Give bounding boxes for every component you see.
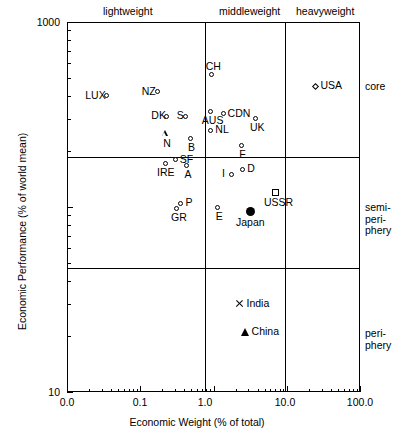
axis-tick: [67, 78, 71, 79]
axis-tick: [67, 263, 71, 264]
point-label: I: [222, 168, 225, 179]
axis-tick: [280, 389, 281, 392]
triangle-inner: [162, 132, 166, 136]
data-point: [162, 130, 168, 136]
axis-tick: [210, 389, 211, 392]
axis-tick: [275, 389, 276, 392]
axis-tick: [118, 389, 119, 392]
data-point: [178, 201, 183, 206]
data-point: [183, 114, 188, 119]
marker-circle-icon: [183, 114, 188, 119]
axis-tick: [360, 386, 361, 392]
axis-tick: [175, 389, 176, 392]
axis-tick: [287, 386, 288, 392]
data-point: [241, 328, 249, 336]
point-label: IRE: [157, 167, 175, 178]
axis-tick: [67, 225, 71, 226]
point-label: N: [163, 138, 171, 149]
marker-diamond-icon: [312, 83, 319, 90]
x-tick-01: 0.1: [118, 396, 162, 408]
axis-tick: [137, 389, 138, 392]
point-label: NL: [215, 124, 228, 135]
axis-tick: [129, 389, 130, 392]
point-label: CDN: [228, 108, 251, 119]
axis-tick: [124, 389, 125, 392]
data-point: [313, 84, 318, 89]
axis-tick: [67, 63, 71, 64]
axis-tick: [67, 248, 71, 249]
axis-tick: [344, 389, 345, 392]
data-point: [221, 111, 226, 116]
axis-tick: [265, 389, 266, 392]
data-point: [229, 172, 234, 177]
axis-tick: [102, 389, 103, 392]
x-tick-10: 10.0: [263, 396, 307, 408]
axis-tick: [162, 389, 163, 392]
divider-horizontal-semi: [67, 268, 360, 269]
data-point: [173, 157, 178, 162]
axis-tick: [353, 389, 354, 392]
axis-tick: [133, 389, 134, 392]
axis-tick: [338, 389, 339, 392]
marker-triangle-filled-icon: [241, 328, 249, 336]
point-label: F: [239, 149, 245, 160]
axis-tick: [67, 30, 71, 31]
x-axis-label: Economic Weight (% of total): [0, 416, 394, 428]
axis-tick: [67, 119, 71, 120]
axis-tick: [283, 389, 284, 392]
plot-area: [67, 22, 360, 392]
point-label: NZ: [142, 86, 156, 97]
marker-circle-icon: [209, 72, 214, 77]
axis-tick: [357, 389, 358, 392]
axis-tick: [89, 389, 90, 392]
band-label-heavyweight: heavyweight: [296, 6, 354, 17]
point-label: India: [246, 298, 269, 309]
axis-tick: [331, 389, 332, 392]
data-point: [208, 109, 213, 114]
axis-tick: [206, 389, 207, 392]
side-label-periphery: peri-phery: [365, 328, 391, 351]
y-axis-label: Economic Performance (% of world mean): [16, 133, 28, 330]
point-label: UK: [250, 122, 265, 133]
side-label-core: core: [365, 81, 385, 93]
point-label: D: [247, 163, 255, 174]
band-label-middleweight: middleweight: [219, 6, 280, 17]
axis-tick: [67, 236, 71, 237]
axis-tick: [258, 389, 259, 392]
axis-tick: [67, 96, 71, 97]
marker-circle-icon: [208, 109, 213, 114]
scatter-chart: lightweight middleweight heavyweight cor…: [0, 0, 394, 442]
axis-tick: [67, 392, 73, 393]
point-label: USA: [320, 80, 342, 91]
point-label: S: [177, 110, 184, 121]
point-label: DK: [151, 110, 166, 121]
x-tick-0: 0.0: [45, 396, 89, 408]
marker-circle-icon: [173, 157, 178, 162]
point-label: LUX: [85, 90, 105, 101]
x-tick-100: 100.0: [338, 396, 382, 408]
point-label: P: [185, 197, 192, 208]
axis-tick: [67, 207, 73, 208]
marker-circle-icon: [215, 205, 220, 210]
divider-vertical-1: [205, 22, 206, 392]
data-point: [272, 189, 279, 196]
axis-tick: [67, 281, 71, 282]
point-label: GR: [171, 212, 187, 223]
marker-circle-icon: [208, 128, 213, 133]
axis-tick: [67, 151, 71, 152]
axis-tick: [270, 389, 271, 392]
data-point: [246, 207, 255, 216]
axis-tick: [140, 386, 141, 392]
axis-tick: [67, 304, 71, 305]
point-label: CH: [206, 61, 221, 72]
axis-tick: [67, 51, 71, 52]
axis-tick: [111, 389, 112, 392]
point-label: Japan: [236, 217, 265, 228]
axis-tick: [197, 389, 198, 392]
x-tick-1: 1.0: [183, 396, 227, 408]
point-label: E: [216, 211, 223, 222]
point-label: USSR: [264, 197, 293, 208]
data-point: [208, 128, 213, 133]
axis-tick: [67, 40, 71, 41]
divider-horizontal-core: [67, 157, 360, 158]
